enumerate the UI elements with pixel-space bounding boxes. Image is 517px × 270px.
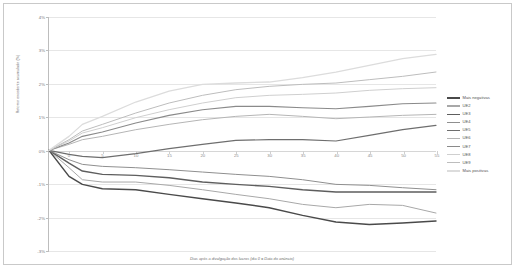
legend-item-label: Mais negativas [463, 96, 490, 100]
legend-color-swatch [447, 122, 460, 123]
y-axis-tick-label: 3% [39, 48, 45, 53]
series-line [49, 150, 436, 189]
legend-item[interactable]: UE3 [447, 110, 511, 118]
series-lines [49, 17, 436, 250]
legend-item[interactable]: Mais positivas [447, 167, 511, 175]
legend-color-swatch [447, 138, 460, 139]
legend-item[interactable]: UE8 [447, 151, 511, 159]
y-axis-tick-label: -1% [37, 182, 45, 187]
y-tickmark [46, 251, 49, 252]
chart-legend: Mais negativasUE2UE3UE4UE5UE6UE7UE8UE9Ma… [447, 94, 511, 175]
y-axis-tick-label: 4% [39, 15, 45, 20]
y-axis-tick-label: 1% [39, 115, 45, 120]
legend-item[interactable]: UE5 [447, 126, 511, 134]
plot-area: 4%3%2%1%0%-1%-2%-3%051015202530354045505… [48, 17, 436, 251]
legend-item-label: UE2 [463, 104, 471, 108]
legend-color-swatch [447, 170, 460, 171]
legend-color-swatch [447, 154, 460, 155]
series-line [49, 88, 436, 151]
legend-item[interactable]: UE9 [447, 159, 511, 167]
legend-color-swatch [447, 114, 460, 115]
legend-item-label: UE6 [463, 136, 471, 140]
legend-color-swatch [447, 146, 460, 147]
legend-item[interactable]: UE2 [447, 102, 511, 110]
y-axis-tick-label: 2% [39, 81, 45, 86]
legend-item-label: Mais positivas [463, 169, 489, 173]
gridline [49, 251, 436, 252]
series-line [49, 150, 436, 224]
legend-item-label: UE9 [463, 161, 471, 165]
chart-frame: Retorno excedente acumulado (%) 4%3%2%1%… [3, 3, 512, 265]
legend-item-label: UE8 [463, 153, 471, 157]
y-axis-tick-label: -2% [37, 215, 45, 220]
series-line [49, 114, 436, 150]
series-line [49, 54, 436, 150]
legend-color-swatch [447, 105, 460, 106]
legend-item-label: UE4 [463, 120, 471, 124]
legend-item-label: UE5 [463, 128, 471, 132]
series-line [49, 72, 436, 150]
legend-color-swatch [447, 97, 460, 99]
legend-color-swatch [447, 130, 460, 131]
legend-item[interactable]: Mais negativas [447, 94, 511, 102]
x-axis-title: Dias após a divulgação dos lucros (dia 0… [48, 256, 436, 261]
legend-item-label: UE7 [463, 145, 471, 149]
y-axis-title: Retorno excedente acumulado (%) [16, 29, 20, 139]
x-tickmark [437, 151, 438, 154]
legend-color-swatch [447, 162, 460, 163]
y-axis-tick-label: -3% [37, 249, 45, 254]
legend-item[interactable]: UE4 [447, 118, 511, 126]
legend-item[interactable]: UE6 [447, 134, 511, 142]
legend-item[interactable]: UE7 [447, 143, 511, 151]
y-axis-tick-label: 0% [39, 148, 45, 153]
legend-item-label: UE3 [463, 112, 471, 116]
